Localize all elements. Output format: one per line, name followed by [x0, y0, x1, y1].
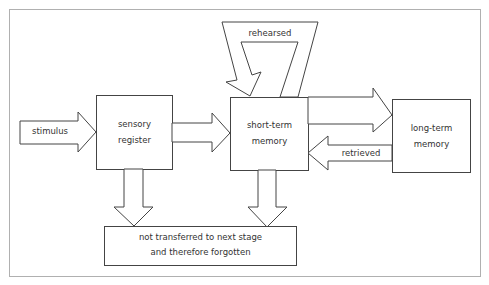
stm-to-ltm-arrow — [308, 88, 392, 132]
long-term-memory-label-2: memory — [392, 137, 471, 152]
rehearsed-label: rehearsed — [240, 26, 300, 41]
sensory-register-label-1: sensory — [96, 117, 173, 132]
forgotten-label-2: and therefore forgotten — [104, 245, 297, 259]
sr-forgotten-arrow — [114, 169, 153, 226]
long-term-memory-label-1: long-term — [392, 121, 471, 136]
long-term-memory-box — [393, 100, 471, 173]
stimulus-label: stimulus — [22, 124, 78, 139]
sr-to-stm-arrow — [172, 113, 230, 152]
short-term-memory-label-2: memory — [230, 134, 309, 149]
short-term-memory-label-1: short-term — [230, 118, 309, 133]
stm-forgotten-arrow — [248, 170, 287, 227]
forgotten-label-1: not transferred to next stage — [104, 230, 297, 244]
sensory-register-label-2: register — [96, 133, 173, 148]
retrieved-label: retrieved — [330, 146, 392, 161]
